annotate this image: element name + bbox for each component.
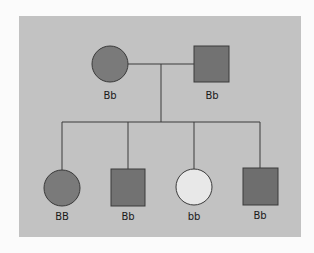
pedigree-chart bbox=[0, 0, 314, 253]
child2-genotype-label: Bb bbox=[121, 211, 134, 222]
mother-circle-affected bbox=[92, 46, 128, 82]
child3-genotype-label: bb bbox=[188, 211, 201, 222]
child3-circle-unaffected bbox=[176, 169, 212, 205]
child2-square-affected bbox=[111, 169, 145, 206]
father-genotype-label: Bb bbox=[205, 90, 218, 101]
child4-square-affected bbox=[243, 168, 278, 205]
father-square-affected bbox=[194, 46, 229, 82]
mother-genotype-label: Bb bbox=[103, 90, 116, 101]
child4-genotype-label: Bb bbox=[253, 210, 266, 221]
child1-genotype-label: BB bbox=[55, 211, 69, 222]
child1-circle-affected bbox=[44, 170, 80, 206]
